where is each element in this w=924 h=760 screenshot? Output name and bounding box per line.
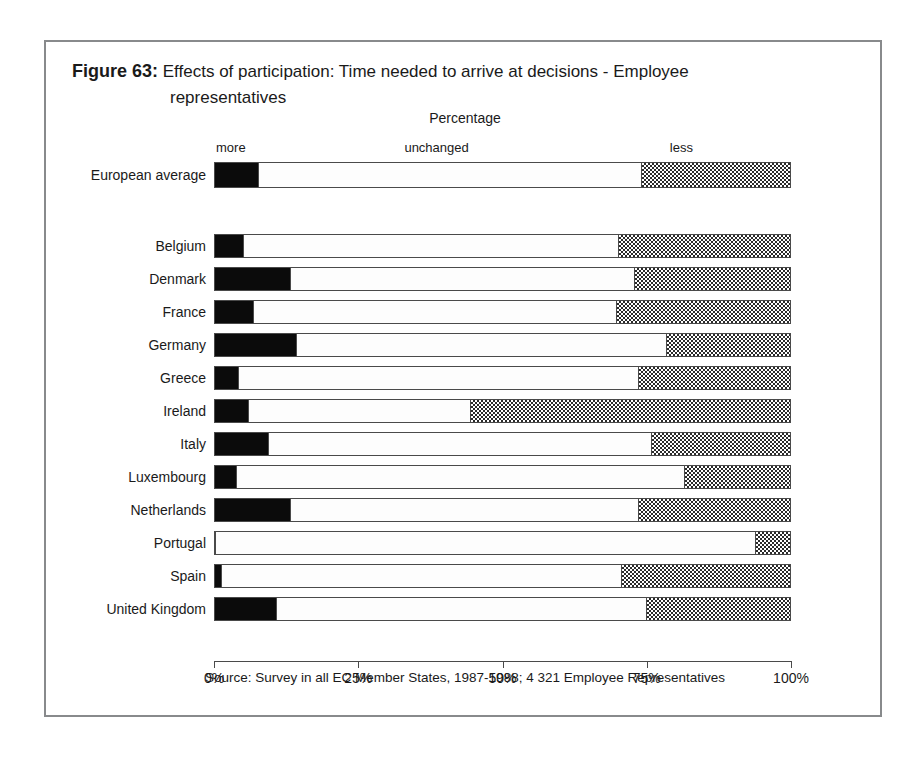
bar-segment-unchanged — [243, 235, 620, 257]
bar-segment-unchanged — [215, 532, 757, 554]
row-label: Italy — [46, 432, 206, 456]
row-label: United Kingdom — [46, 597, 206, 621]
bar-segment-less — [470, 400, 790, 422]
bar-segment-unchanged — [248, 400, 472, 422]
bar-segment-more — [215, 499, 290, 521]
bar-segment-less — [638, 499, 790, 521]
bar-segment-unchanged — [221, 565, 623, 587]
figure-frame: Figure 63: Effects of participation: Tim… — [44, 40, 882, 717]
chart-row: France — [46, 300, 801, 324]
chart-row: Ireland — [46, 399, 801, 423]
chart-row: Spain — [46, 564, 801, 588]
x-axis-tick — [647, 661, 648, 668]
x-axis-tick — [214, 661, 215, 668]
bar-segment-less — [651, 433, 790, 455]
bar-segment-less — [755, 532, 790, 554]
bar-segment-unchanged — [290, 268, 636, 290]
chart-plot-area: moreunchangedlessEuropean averageBelgium… — [46, 42, 884, 719]
bar-segment-unchanged — [258, 163, 643, 187]
bar-segment-unchanged — [290, 499, 640, 521]
bar-segment-less — [641, 163, 790, 187]
stacked-bar — [214, 333, 791, 357]
bar-segment-less — [616, 301, 790, 323]
bar-segment-more — [215, 334, 296, 356]
bar-segment-more — [215, 598, 276, 620]
chart-row: Netherlands — [46, 498, 801, 522]
chart-row: European average — [46, 162, 801, 188]
stacked-bar — [214, 399, 791, 423]
legend-label-more: more — [216, 140, 246, 155]
row-label: Portugal — [46, 531, 206, 555]
bar-segment-less — [618, 235, 790, 257]
row-label: Germany — [46, 333, 206, 357]
stacked-bar — [214, 465, 791, 489]
row-label: Greece — [46, 366, 206, 390]
bar-segment-unchanged — [236, 466, 686, 488]
bar-segment-more — [215, 163, 258, 187]
bar-segment-more — [215, 367, 238, 389]
chart-row: Portugal — [46, 531, 801, 555]
stacked-bar — [214, 498, 791, 522]
bar-segment-more — [215, 235, 243, 257]
row-label: Luxembourg — [46, 465, 206, 489]
stacked-bar — [214, 162, 791, 188]
bar-segment-more — [215, 433, 268, 455]
chart-row: Italy — [46, 432, 801, 456]
x-axis-tick — [791, 661, 792, 668]
chart-row: Belgium — [46, 234, 801, 258]
source-note: Source: Survey in all EC Member States, … — [46, 670, 884, 685]
stacked-bar — [214, 300, 791, 324]
stacked-bar — [214, 366, 791, 390]
bar-segment-more — [215, 466, 236, 488]
row-label: European average — [46, 162, 206, 188]
row-label: Belgium — [46, 234, 206, 258]
chart-row: Greece — [46, 366, 801, 390]
bar-segment-unchanged — [268, 433, 653, 455]
chart-row: Luxembourg — [46, 465, 801, 489]
stacked-bar — [214, 531, 791, 555]
row-label: Ireland — [46, 399, 206, 423]
x-axis-tick — [358, 661, 359, 668]
row-label: Denmark — [46, 267, 206, 291]
stacked-bar — [214, 267, 791, 291]
bar-segment-more — [215, 400, 248, 422]
bar-segment-less — [621, 565, 790, 587]
stacked-bar — [214, 564, 791, 588]
stacked-bar — [214, 234, 791, 258]
x-axis-tick — [503, 661, 504, 668]
stacked-bar — [214, 597, 791, 621]
chart-row: Germany — [46, 333, 801, 357]
row-label: France — [46, 300, 206, 324]
bar-segment-more — [215, 268, 290, 290]
chart-row: United Kingdom — [46, 597, 801, 621]
bar-segment-less — [638, 367, 790, 389]
legend-label-unchanged: unchanged — [404, 140, 468, 155]
legend-label-less: less — [670, 140, 693, 155]
bar-segment-unchanged — [296, 334, 668, 356]
row-label: Netherlands — [46, 498, 206, 522]
chart-row: Denmark — [46, 267, 801, 291]
bar-segment-more — [215, 301, 253, 323]
bar-segment-less — [634, 268, 790, 290]
row-label: Spain — [46, 564, 206, 588]
bar-segment-less — [666, 334, 790, 356]
bar-segment-less — [684, 466, 790, 488]
bar-segment-less — [646, 598, 790, 620]
stacked-bar — [214, 432, 791, 456]
bar-segment-unchanged — [238, 367, 640, 389]
bar-segment-unchanged — [253, 301, 618, 323]
bar-segment-unchanged — [276, 598, 648, 620]
